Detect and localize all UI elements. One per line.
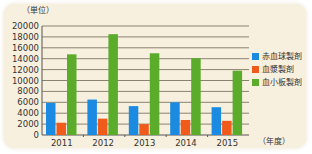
legend-swatch-2 xyxy=(252,79,259,86)
legend-swatch-1 xyxy=(252,66,259,73)
bars xyxy=(46,34,242,135)
y-tick-label: 16000 xyxy=(12,43,39,53)
y-tick-labels: 0200040006000800010000120001400016000180… xyxy=(12,21,39,140)
bar-2013-2 xyxy=(150,53,160,135)
bar-2012-0 xyxy=(87,100,97,135)
bar-2011-2 xyxy=(67,54,77,135)
y-axis-unit-label: （単位） xyxy=(22,5,54,15)
bar-2015-1 xyxy=(222,121,232,135)
x-tick-label: 2014 xyxy=(175,138,197,148)
bar-chart: （単位） 02000400060008000100001200014000160… xyxy=(0,0,312,154)
y-tick-label: 4000 xyxy=(17,108,39,118)
bar-2011-1 xyxy=(57,123,67,135)
y-tick-label: 8000 xyxy=(17,86,39,96)
y-tick-label: 2000 xyxy=(17,119,39,129)
x-tick-label: 2015 xyxy=(217,138,239,148)
legend: 赤血球製剤血漿製剤血小板製剤 xyxy=(252,51,302,87)
y-tick-label: 20000 xyxy=(12,21,39,31)
bar-2012-1 xyxy=(98,119,108,135)
x-tick-label: 2011 xyxy=(51,138,73,148)
x-tick-labels: 20112012201320142015 xyxy=(51,138,238,148)
bar-2011-0 xyxy=(46,103,56,135)
bar-2015-2 xyxy=(233,71,243,135)
y-tick-label: 12000 xyxy=(12,65,39,75)
bar-2014-2 xyxy=(191,58,201,135)
bar-2013-1 xyxy=(139,124,149,135)
bar-2014-0 xyxy=(170,102,180,135)
legend-swatch-0 xyxy=(252,53,259,60)
x-axis-unit-label: （年度） xyxy=(258,136,290,146)
y-tick-label: 14000 xyxy=(12,54,39,64)
legend-label-0: 赤血球製剤 xyxy=(262,51,302,61)
bar-2013-0 xyxy=(129,106,139,135)
legend-label-2: 血小板製剤 xyxy=(262,77,302,87)
bar-2012-2 xyxy=(108,34,118,135)
legend-label-1: 血漿製剤 xyxy=(262,64,294,74)
y-tick-label: 18000 xyxy=(12,32,39,42)
bar-2014-1 xyxy=(181,120,191,135)
x-tick-label: 2012 xyxy=(92,138,114,148)
x-tick-label: 2013 xyxy=(134,138,156,148)
y-tick-label: 6000 xyxy=(17,97,39,107)
bar-2015-0 xyxy=(212,107,222,135)
y-tick-label: 10000 xyxy=(12,76,39,86)
y-tick-label: 0 xyxy=(34,130,39,140)
